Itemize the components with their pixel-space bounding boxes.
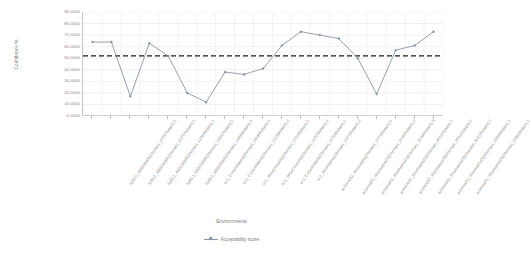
y-axis-tick-label: 80.0000	[46, 21, 80, 25]
data-point	[243, 73, 246, 76]
chart-legend: Acceptability score	[0, 236, 463, 242]
y-axis-tick-label: 0.0000	[46, 114, 80, 118]
line-chart-svg	[83, 12, 443, 116]
gridlines	[83, 12, 443, 116]
y-axis-tick-label: 50.0000	[46, 56, 80, 60]
data-point	[318, 34, 321, 37]
plot-area	[82, 12, 442, 116]
data-point	[394, 49, 397, 52]
x-axis-title: Environments	[0, 218, 463, 224]
legend-item-label: Acceptability score	[221, 237, 259, 242]
x-axis-tick-labels: NJ510_ABSOBSR(Dhenani_20757Ndam),1NJ511_…	[0, 119, 463, 215]
y-axis-tick-labels: 90.000080.000070.000060.000050.000040.00…	[46, 12, 80, 116]
y-axis-tick-label: 10.0000	[46, 102, 80, 106]
y-axis-tick-label: 30.0000	[46, 79, 80, 83]
data-point	[110, 41, 113, 44]
y-axis-tick-label: 20.0000	[46, 91, 80, 95]
y-axis-title: Confidence %	[14, 15, 19, 95]
series-markers	[91, 30, 435, 103]
y-axis-tick-label: 40.0000	[46, 68, 80, 72]
legend-line-marker-icon	[204, 236, 218, 242]
y-axis-tick-label: 90.0000	[46, 10, 80, 14]
y-axis-tick-label: 70.0000	[46, 33, 80, 37]
data-point	[91, 41, 94, 44]
y-axis-tick-label: 60.0000	[46, 44, 80, 48]
series-line	[92, 32, 433, 102]
data-point	[129, 95, 132, 98]
data-point	[186, 91, 189, 94]
